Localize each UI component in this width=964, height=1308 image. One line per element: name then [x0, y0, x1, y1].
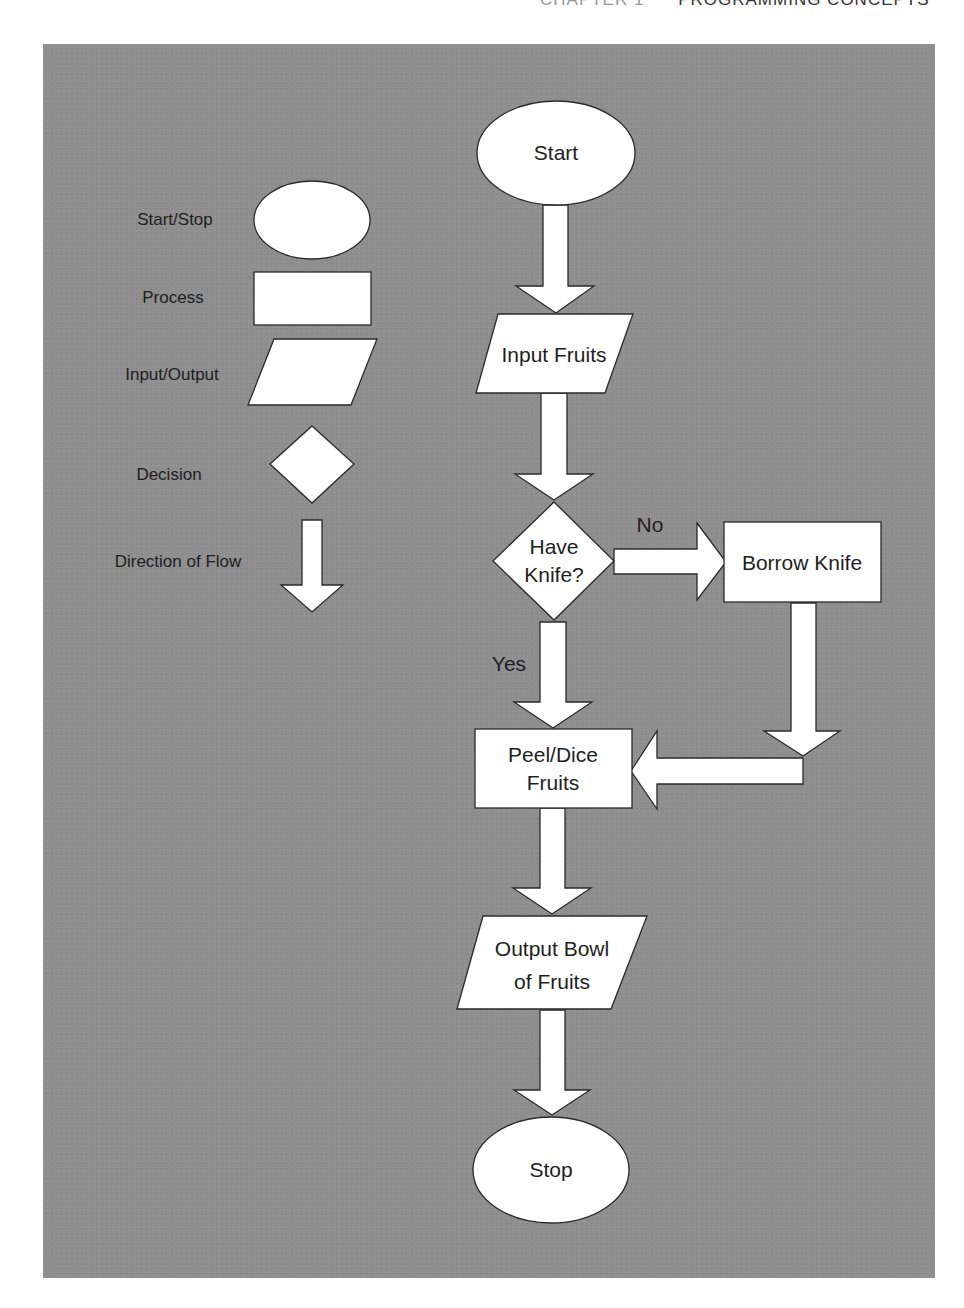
node-label: Stop [529, 1158, 572, 1181]
node-stop: Stop [473, 1117, 629, 1223]
arrow-decision-to-peel [514, 622, 592, 728]
legend-item-decision: Decision [136, 426, 354, 503]
decision-diamond [493, 502, 614, 620]
legend-item-start-stop: Start/Stop [137, 181, 370, 259]
node-label-line2: of Fruits [514, 970, 590, 993]
node-label-line1: Have [529, 535, 578, 558]
edge-label-yes: Yes [492, 652, 526, 675]
legend-item-input-output: Input/Output [125, 339, 377, 405]
flowchart-diagram: Start/Stop Process Input/Output Decision… [0, 0, 964, 1308]
arrow-decision-to-borrow [614, 523, 726, 600]
arrow-borrow-to-peel [631, 731, 803, 809]
legend-label: Decision [136, 465, 201, 484]
legend-label: Start/Stop [137, 210, 213, 229]
arrow-down-icon [281, 520, 343, 612]
legend-label: Direction of Flow [115, 552, 242, 571]
diamond-shape-icon [270, 426, 354, 503]
node-label-line1: Output Bowl [495, 937, 609, 960]
edge-label-no: No [637, 513, 664, 536]
arrow-borrow-down [764, 603, 840, 756]
arrow-output-to-stop [514, 1010, 590, 1115]
node-label: Start [534, 141, 579, 164]
node-label-line1: Peel/Dice [508, 743, 598, 766]
node-label-line2: Fruits [527, 771, 580, 794]
node-input-fruits: Input Fruits [476, 314, 633, 393]
legend-label: Input/Output [125, 365, 219, 384]
node-output-bowl: Output Bowl of Fruits [457, 916, 647, 1009]
node-label: Borrow Knife [742, 551, 862, 574]
ellipse-shape-icon [254, 181, 370, 259]
process-rectangle [475, 729, 632, 808]
rectangle-shape-icon [254, 272, 371, 325]
arrow-start-to-input [516, 205, 594, 313]
arrow-peel-to-output [513, 808, 591, 914]
arrow-input-to-decision [515, 393, 593, 500]
node-label-line2: Knife? [524, 563, 584, 586]
legend-label: Process [142, 288, 203, 307]
node-borrow-knife: Borrow Knife [724, 522, 881, 602]
node-label: Input Fruits [501, 343, 606, 366]
node-have-knife: Have Knife? [493, 502, 614, 620]
legend-item-process: Process [142, 272, 371, 325]
node-start: Start [477, 101, 635, 205]
parallelogram-shape-icon [248, 339, 377, 405]
node-peel-dice: Peel/Dice Fruits [475, 729, 632, 808]
legend: Start/Stop Process Input/Output Decision… [115, 181, 377, 612]
legend-item-direction-of-flow: Direction of Flow [115, 520, 343, 612]
output-parallelogram [457, 916, 647, 1009]
